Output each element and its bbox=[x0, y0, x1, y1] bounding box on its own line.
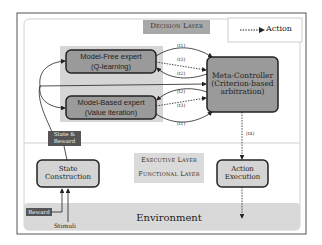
state-reward-tag-line1: State & bbox=[48, 131, 81, 138]
model-based-title: Model-Based expert bbox=[66, 98, 156, 107]
state-reward-tag-line2: Reward bbox=[48, 138, 81, 145]
action-execution-line2: Execution bbox=[217, 173, 268, 181]
edge-label-mb-t2: (t2) bbox=[177, 89, 185, 94]
meta-controller-subtitle-2: arbitration) bbox=[207, 88, 278, 96]
model-based-subtitle: (Value iteration) bbox=[66, 108, 156, 117]
state-construction-line1: State bbox=[37, 165, 99, 173]
edge-label-mb-t1: (t1) bbox=[177, 121, 185, 126]
functional-layer-label: Functional Layer bbox=[134, 170, 204, 178]
state-construction-line2: Construction bbox=[37, 173, 99, 181]
edge-label-mf-t2: (t2) bbox=[177, 71, 185, 76]
edge-label-mf-t1: (t1) bbox=[177, 43, 185, 48]
reward-tag-label: Reward bbox=[26, 208, 52, 216]
edge-label-mb-t3: (t3) bbox=[177, 103, 185, 108]
model-free-subtitle: (Q-learning) bbox=[66, 62, 156, 71]
action-execution-line1: Action bbox=[217, 165, 268, 173]
environment-label: Environment bbox=[134, 212, 204, 223]
legend-action-label: Action bbox=[266, 24, 292, 33]
stimuli-label: Stimuli bbox=[54, 222, 76, 229]
edge-label-mf-t3: (t3) bbox=[177, 57, 185, 62]
decision-layer-title: Decision Layer bbox=[143, 22, 210, 30]
edge-label-action-t4: (t4) bbox=[246, 131, 254, 136]
executive-layer-label: Executive Layer bbox=[134, 156, 204, 164]
model-free-title: Model-Free expert bbox=[66, 52, 156, 61]
